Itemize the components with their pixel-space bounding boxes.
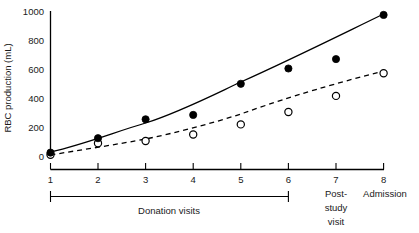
open-marker-4 bbox=[190, 131, 197, 138]
x-tick-label-2: 2 bbox=[95, 174, 100, 185]
rbc-production-chart: RBC production (mL) 0 200 400 600 800 10… bbox=[0, 0, 419, 233]
filled-marker-6 bbox=[285, 65, 292, 72]
y-axis-title: RBC production (mL) bbox=[2, 43, 13, 132]
chart-svg: RBC production (mL) 0 200 400 600 800 10… bbox=[0, 0, 419, 233]
open-marker-8 bbox=[380, 70, 387, 77]
filled-marker-8 bbox=[380, 11, 387, 18]
y-tick-label-1000: 1000 bbox=[23, 6, 44, 17]
filled-series-trendline bbox=[51, 14, 384, 152]
post-study-visit-label-line2: study bbox=[325, 202, 348, 213]
x-tick-label-4: 4 bbox=[191, 174, 196, 185]
post-study-visit-label-line3: visit bbox=[328, 216, 345, 227]
y-tick-label-600: 600 bbox=[28, 64, 44, 75]
filled-marker-4 bbox=[190, 111, 197, 118]
x-tick-label-1: 1 bbox=[48, 174, 53, 185]
open-marker-5 bbox=[237, 121, 244, 128]
filled-marker-2 bbox=[94, 135, 101, 142]
open-marker-3 bbox=[142, 137, 149, 144]
donation-visits-label: Donation visits bbox=[138, 205, 200, 216]
y-tick-label-800: 800 bbox=[28, 35, 44, 46]
open-marker-7 bbox=[332, 92, 339, 99]
y-tick-label-400: 400 bbox=[28, 93, 44, 104]
y-tick-label-200: 200 bbox=[28, 122, 44, 133]
donation-visits-bracket bbox=[51, 191, 289, 202]
x-tick-label-6: 6 bbox=[286, 174, 291, 185]
filled-marker-1 bbox=[47, 149, 54, 156]
filled-marker-5 bbox=[237, 80, 244, 87]
filled-marker-7 bbox=[332, 56, 339, 63]
x-tick-label-3: 3 bbox=[143, 174, 148, 185]
filled-marker-3 bbox=[142, 116, 149, 123]
open-marker-6 bbox=[285, 108, 292, 115]
y-tick-label-0: 0 bbox=[39, 151, 44, 162]
x-tick-label-7: 7 bbox=[333, 174, 338, 185]
admission-label: Admission bbox=[363, 188, 407, 199]
post-study-visit-label-line1: Post- bbox=[325, 188, 347, 199]
x-tick-label-5: 5 bbox=[238, 174, 243, 185]
x-tick-label-8: 8 bbox=[381, 174, 386, 185]
